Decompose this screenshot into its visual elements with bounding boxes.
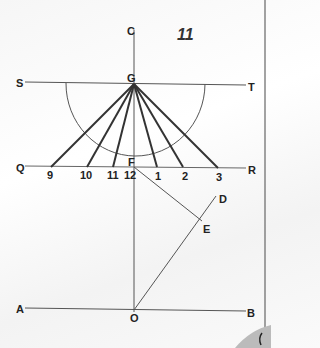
sundial-construction-diagram: 11 C G S T Q R F D E A B O 9 10 11 12 1 … [0,0,271,348]
hour-line-10 [87,84,134,167]
point-E: E [203,223,210,235]
hour-label-11: 11 [107,169,119,181]
point-G: G [127,72,136,84]
figure-number: 11 [177,26,194,43]
hour-label-9: 9 [47,169,53,181]
point-D: D [219,193,227,205]
point-C: C [127,25,135,37]
point-A: A [16,303,24,315]
hour-label-2: 2 [182,170,188,182]
hour-label-12: 12 [124,169,136,181]
point-F: F [128,156,135,168]
point-B: B [247,307,255,319]
point-T: T [248,81,255,93]
page-curl [235,325,271,348]
point-Q: Q [16,162,25,174]
hour-label-3: 3 [216,171,222,183]
hour-label-10: 10 [80,169,92,181]
point-O: O [130,312,139,324]
point-S: S [16,77,23,89]
semicircle-arc [66,83,205,156]
line-OD [134,196,216,310]
hour-label-1: 1 [155,170,161,182]
line-FE [134,167,202,221]
point-R: R [248,164,256,176]
